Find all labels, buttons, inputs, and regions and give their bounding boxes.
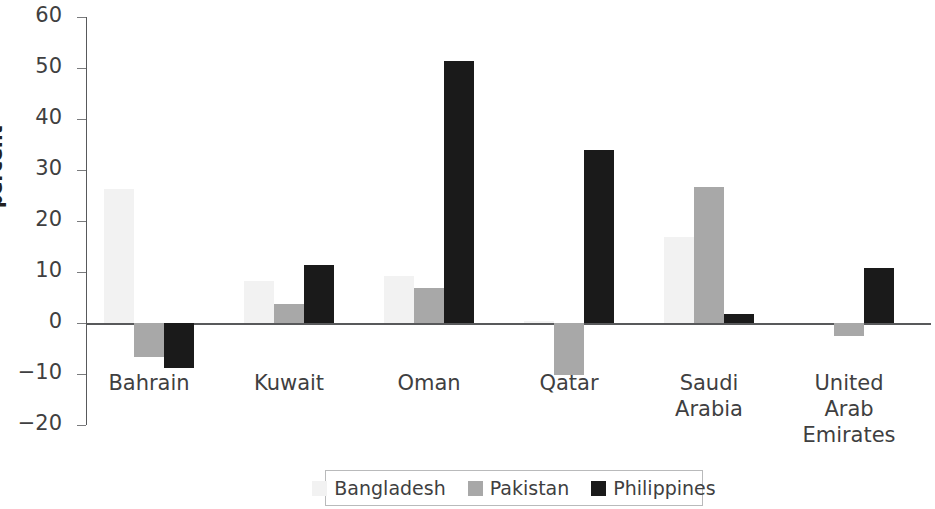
bar <box>104 189 134 323</box>
bar <box>554 323 584 375</box>
bar <box>164 323 194 368</box>
legend: Bangladesh Pakistan Philippines <box>325 470 703 506</box>
bar <box>694 187 724 323</box>
y-axis-spine <box>86 17 87 425</box>
legend-label: Bangladesh <box>334 477 445 499</box>
y-axis-tick <box>77 425 86 426</box>
legend-label: Pakistan <box>490 477 570 499</box>
bar <box>584 150 614 323</box>
bar <box>834 323 864 336</box>
bar <box>414 288 444 323</box>
bar <box>384 276 414 323</box>
y-axis-tick <box>77 272 86 273</box>
y-axis-tick <box>77 17 86 18</box>
y-axis-tick <box>77 323 86 324</box>
y-axis-tick <box>77 170 86 171</box>
bar <box>274 304 304 323</box>
bar <box>524 321 554 323</box>
x-axis-category-label: Kuwait <box>214 370 364 396</box>
legend-swatch-icon <box>468 481 483 496</box>
legend-item: Bangladesh <box>312 477 445 499</box>
legend-label: Philippines <box>613 477 715 499</box>
legend-swatch-icon <box>591 481 606 496</box>
bar <box>134 323 164 357</box>
x-axis-category-label: Qatar <box>494 370 644 396</box>
legend-swatch-icon <box>312 481 327 496</box>
x-axis-category-label: Bahrain <box>74 370 224 396</box>
x-axis-category-label: United Arab Emirates <box>774 370 924 448</box>
x-axis-category-label: Saudi Arabia <box>634 370 784 422</box>
y-axis-tick <box>77 221 86 222</box>
bar <box>444 61 474 323</box>
bar <box>244 281 274 323</box>
bar <box>304 265 334 323</box>
bar-chart: percent 6050403020100−10−20 BahrainKuwai… <box>0 0 935 509</box>
y-axis-title: percent <box>0 125 6 208</box>
bar <box>724 314 754 323</box>
zero-baseline <box>86 323 931 325</box>
legend-item: Pakistan <box>468 477 570 499</box>
y-axis-tick <box>77 68 86 69</box>
x-axis-category-label: Oman <box>354 370 504 396</box>
y-axis-tick <box>77 119 86 120</box>
bar <box>864 268 894 323</box>
legend-item: Philippines <box>591 477 715 499</box>
bar <box>664 237 694 323</box>
